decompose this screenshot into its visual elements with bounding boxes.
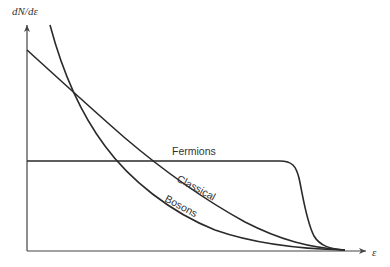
fermions-label: Fermions — [172, 145, 216, 157]
bosons-curve — [50, 25, 345, 250]
x-axis-label: ε — [372, 246, 377, 258]
distribution-diagram: dN/dε ε Fermions Classical Bosons — [0, 0, 390, 267]
y-axis-label: dN/dε — [12, 5, 38, 17]
